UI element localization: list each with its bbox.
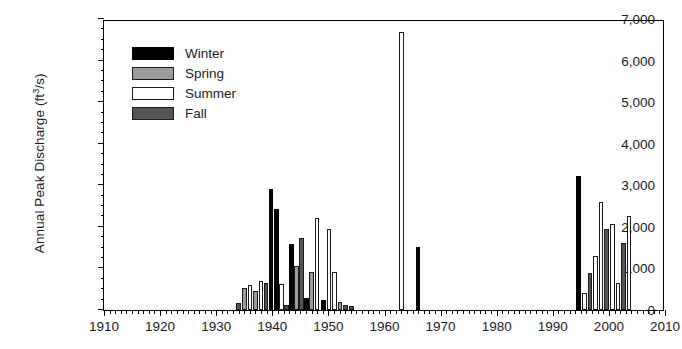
x-axis-minor-tick [166, 310, 167, 314]
x-axis-minor-tick [373, 310, 374, 314]
legend-item-spring: Spring [132, 65, 236, 82]
bar-summer-1936 [248, 285, 253, 310]
bar-summer-1963 [399, 32, 404, 310]
x-axis-minor-tick [171, 310, 172, 314]
x-axis-minor-tick [255, 310, 256, 314]
x-axis-minor-tick [631, 310, 632, 314]
x-axis-minor-tick [250, 310, 251, 314]
bar-spring-1935 [242, 288, 247, 310]
y-axis-minor-tick [101, 236, 105, 237]
x-axis-minor-tick [457, 310, 458, 314]
y-axis-minor-tick [101, 91, 105, 92]
x-axis-minor-tick [413, 310, 414, 314]
x-axis-minor-tick [149, 310, 150, 314]
x-axis-minor-tick [570, 310, 571, 314]
x-axis-minor-tick [654, 310, 655, 314]
legend-label-fall: Fall [185, 107, 207, 121]
legend-item-fall: Fall [132, 105, 236, 122]
bar-fall-2003 [621, 243, 626, 310]
bar-summer-1951 [332, 272, 337, 310]
x-axis-minor-tick [284, 310, 285, 314]
x-axis-minor-tick [356, 310, 357, 314]
y-axis-minor-tick [101, 247, 105, 248]
x-axis-major-tick [160, 310, 161, 316]
y-axis-minor-tick [101, 257, 105, 258]
y-axis-major-tick [98, 60, 104, 61]
x-axis-minor-tick [115, 310, 116, 314]
y-axis-tick-label: 5,000 [621, 95, 655, 110]
y-axis-title-tail: /s) [32, 73, 47, 88]
y-axis-minor-tick [101, 80, 105, 81]
bar-fall-1943 [284, 305, 289, 310]
y-axis-minor-tick [101, 28, 105, 29]
legend-swatch-spring [132, 67, 174, 80]
bar-summer-1948 [315, 218, 320, 310]
bar-fall-1953 [343, 305, 348, 310]
y-axis-major-tick [98, 18, 104, 19]
y-axis-minor-tick [101, 215, 105, 216]
x-axis-major-tick [104, 310, 105, 316]
y-axis-major-tick [98, 143, 104, 144]
bar-spring-1952 [338, 302, 343, 310]
x-axis-minor-tick [121, 310, 122, 314]
y-axis-minor-tick [101, 70, 105, 71]
bar-summer-1950 [327, 229, 332, 310]
legend-label-winter: Winter [185, 47, 224, 61]
x-axis-minor-tick [138, 310, 139, 314]
x-axis-minor-tick [154, 310, 155, 314]
x-axis-minor-tick [525, 310, 526, 314]
x-axis-tick-label: 1910 [89, 319, 119, 334]
x-axis-minor-tick [581, 310, 582, 314]
x-axis-minor-tick [514, 310, 515, 314]
bar-spring-1944 [294, 266, 299, 310]
x-axis-minor-tick [261, 310, 262, 314]
bar-winter-1946 [304, 298, 309, 310]
x-axis-minor-tick [502, 310, 503, 314]
bar-winter-1940 [269, 189, 274, 310]
x-axis-minor-tick [334, 310, 335, 314]
legend-label-spring: Spring [185, 67, 224, 81]
x-axis-minor-tick [603, 310, 604, 314]
y-axis-minor-tick [101, 112, 105, 113]
bar-fall-1934 [236, 303, 241, 310]
x-axis-minor-tick [289, 310, 290, 314]
legend-swatch-fall [132, 107, 174, 120]
x-axis-minor-tick [401, 310, 402, 314]
bar-fall-1997 [588, 273, 593, 310]
x-axis-minor-tick [446, 310, 447, 314]
y-axis-minor-tick [101, 195, 105, 196]
bar-winter-1943 [289, 244, 294, 310]
x-axis-minor-tick [323, 310, 324, 314]
x-axis-minor-tick [615, 310, 616, 314]
x-axis-minor-tick [643, 310, 644, 314]
y-axis-major-tick [98, 101, 104, 102]
y-axis-major-tick [98, 184, 104, 185]
x-axis-minor-tick [126, 310, 127, 314]
y-axis-tick-label: 7,000 [621, 12, 655, 27]
x-axis-minor-tick [300, 310, 301, 314]
x-axis-minor-tick [536, 310, 537, 314]
bar-fall-1954 [349, 306, 354, 310]
x-axis-minor-tick [429, 310, 430, 314]
x-axis-minor-tick [188, 310, 189, 314]
y-axis-minor-tick [101, 49, 105, 50]
x-axis-minor-tick [598, 310, 599, 314]
x-axis-minor-tick [463, 310, 464, 314]
x-axis-minor-tick [424, 310, 425, 314]
bar-fall-1939 [264, 283, 269, 310]
x-axis-major-tick [553, 310, 554, 316]
x-axis-minor-tick [637, 310, 638, 314]
x-axis-minor-tick [508, 310, 509, 314]
chart-legend: WinterSpringSummerFall [132, 45, 236, 125]
y-axis-minor-tick [101, 278, 105, 279]
x-axis-minor-tick [564, 310, 565, 314]
bar-fall-2000 [604, 229, 609, 310]
x-axis-minor-tick [183, 310, 184, 314]
y-axis-major-tick [98, 226, 104, 227]
x-axis-major-tick [328, 310, 329, 316]
x-axis-minor-tick [177, 310, 178, 314]
legend-item-winter: Winter [132, 45, 236, 62]
bar-summer-1942 [279, 284, 284, 310]
x-axis-minor-tick [491, 310, 492, 314]
x-axis-minor-tick [626, 310, 627, 314]
